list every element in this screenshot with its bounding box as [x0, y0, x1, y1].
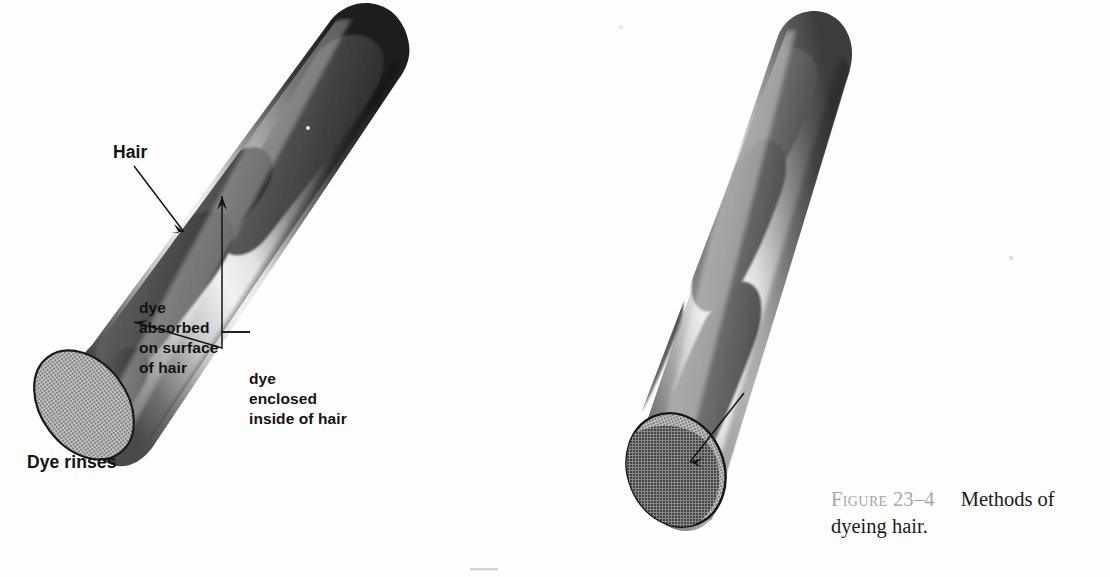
- label-dye-enclosed-inside: dye enclosed inside of hair: [249, 369, 347, 429]
- scan-speck-2: [619, 25, 623, 29]
- figure-page: Hair Dye rinses dye absorbed on surface …: [0, 0, 1110, 577]
- caption-figure-word: Figure: [831, 488, 888, 510]
- left-hair-shaft: [14, 3, 412, 479]
- scan-speck-4: [470, 568, 498, 570]
- label-dye-rinses: Dye rinses: [27, 452, 117, 472]
- scan-speck-3: [1009, 256, 1014, 261]
- label-hair: Hair: [113, 142, 147, 162]
- right-enclosed-dye-region: [623, 426, 719, 531]
- figure-caption: Figure 23–4Methods of dyeing hair.: [831, 486, 1103, 539]
- scan-speck-1: [306, 126, 310, 130]
- hair-leader-line: [134, 166, 184, 232]
- label-dye-absorbed-on-surface: dye absorbed on surface of hair: [139, 298, 218, 379]
- right-hair-shaft: [610, 11, 856, 542]
- caption-figure-number: 23–4: [893, 488, 935, 510]
